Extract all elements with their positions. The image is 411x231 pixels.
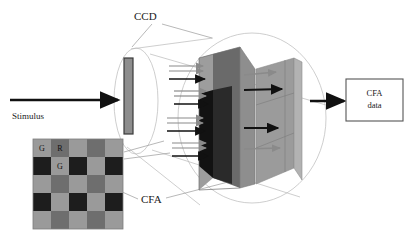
cfa-cell <box>33 211 51 229</box>
cfa-cell <box>105 193 123 211</box>
cfa-cell <box>69 175 87 193</box>
label-cfa: CFA <box>141 193 162 205</box>
front-plane-band-dark2 <box>213 86 232 184</box>
figure-ccd-cfa-diagram: CCD Stimulus GRG CFA <box>0 0 411 231</box>
cfa-data-box-line2: data <box>367 100 381 110</box>
cfa-cell <box>51 211 69 229</box>
cfa-cell <box>87 193 105 211</box>
cfa-cell <box>51 193 69 211</box>
cfa-cell <box>69 193 87 211</box>
cfa-cell <box>105 211 123 229</box>
front-plane-cfa <box>199 47 255 190</box>
cfa-cell <box>69 139 87 157</box>
cfa-cell-letter: R <box>57 144 63 153</box>
label-stimulus: Stimulus <box>12 111 45 121</box>
cfa-cell <box>69 211 87 229</box>
cfa-data-box: CFA data <box>346 79 403 121</box>
cfa-cell <box>105 139 123 157</box>
cfa-cell <box>105 157 123 175</box>
leader-ccd <box>132 24 152 47</box>
cfa-cell <box>33 193 51 211</box>
cfa-cell <box>69 157 87 175</box>
cfa-data-box-line1: CFA <box>367 88 384 98</box>
leader-mosaic-to-cone-b <box>124 153 170 159</box>
leader-ccd-2 <box>162 24 212 38</box>
cfa-cell <box>87 175 105 193</box>
cone-edge-top <box>131 38 213 49</box>
back-plane-thickness <box>294 58 302 180</box>
cfa-cell <box>87 211 105 229</box>
stimulus-arrow-group: Stimulus <box>10 100 118 121</box>
back-plane-slab <box>256 58 302 184</box>
cfa-cell <box>105 175 123 193</box>
ccd-sensor-bar <box>124 58 133 134</box>
cfa-cell <box>87 157 105 175</box>
label-ccd: CCD <box>134 10 157 22</box>
cfa-cell-letter: G <box>39 144 45 153</box>
cfa-cell-letter: G <box>57 162 63 171</box>
cfa-cell <box>33 157 51 175</box>
back-plane-face <box>256 58 294 184</box>
cfa-cell <box>33 175 51 193</box>
cone-left-ellipse <box>114 48 158 154</box>
front-plane-tail <box>240 47 255 188</box>
cfa-cell <box>51 175 69 193</box>
cfa-cell <box>87 139 105 157</box>
cfa-mosaic: GRG <box>33 139 123 229</box>
